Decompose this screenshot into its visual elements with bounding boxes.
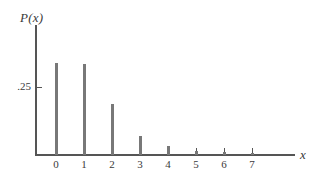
- x-axis-tick-label: 7: [242, 158, 262, 170]
- y-axis-line: [35, 25, 37, 156]
- bar: [139, 136, 142, 155]
- bar: [83, 64, 86, 155]
- x-axis-tick-label: 2: [102, 158, 122, 170]
- bar: [195, 151, 198, 155]
- bar: [167, 146, 170, 155]
- bar: [111, 104, 114, 155]
- bar: [251, 153, 254, 155]
- x-axis-tick-label: 0: [46, 158, 66, 170]
- x-axis-title: x: [300, 147, 306, 163]
- x-axis-tick-label: 1: [74, 158, 94, 170]
- y-axis-title: P(x): [20, 10, 43, 26]
- y-axis-tick-mark: [35, 87, 42, 88]
- bar: [55, 63, 58, 155]
- x-axis-tick-label: 4: [158, 158, 178, 170]
- probability-mass-function-chart: P(x) x .25 01234567: [0, 0, 320, 189]
- y-axis-tick-label: .25: [17, 80, 31, 92]
- x-axis-tick-label: 6: [214, 158, 234, 170]
- bar: [223, 152, 226, 155]
- x-axis-tick-label: 5: [186, 158, 206, 170]
- x-axis-tick-label: 3: [130, 158, 150, 170]
- x-axis-line: [35, 154, 295, 156]
